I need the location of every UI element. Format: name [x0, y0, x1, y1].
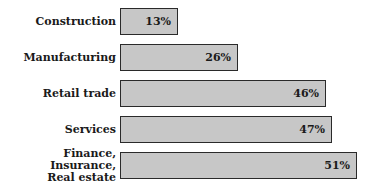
category-label: Manufacturing [0, 44, 116, 71]
category-label: Retail trade [0, 80, 116, 107]
value-label: 47% [299, 123, 331, 136]
value-label: 26% [205, 51, 237, 64]
bar-row: Construction 13% [0, 8, 366, 35]
category-label: Services [0, 116, 116, 143]
value-label: 51% [324, 159, 356, 172]
category-label: Finance, Insurance, Real estate [0, 152, 116, 179]
bar-row: Services 47% [0, 116, 366, 143]
bar: 46% [120, 80, 326, 107]
bar-row: Retail trade 46% [0, 80, 366, 107]
bar: 13% [120, 8, 178, 35]
bar: 51% [120, 152, 357, 179]
bar: 47% [120, 116, 332, 143]
bar: 26% [120, 44, 238, 71]
value-label: 13% [145, 15, 177, 28]
category-label: Construction [0, 8, 116, 35]
bar-row: Manufacturing 26% [0, 44, 366, 71]
value-label: 46% [293, 87, 325, 100]
bar-row: Finance, Insurance, Real estate 51% [0, 152, 366, 179]
